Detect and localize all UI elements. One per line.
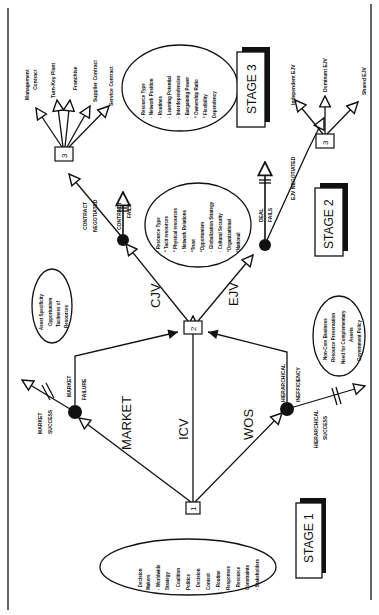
cjv-path-line — [126, 244, 188, 321]
svg-text:MARKET: MARKET — [37, 413, 43, 434]
svg-text:HIERARCHICAL: HIERARCHICAL — [280, 364, 286, 402]
svg-text:Politics: Politics — [186, 573, 191, 590]
svg-text:Contract: Contract — [32, 69, 38, 90]
svg-text:· Interdependencies: · Interdependencies — [176, 75, 181, 118]
svg-text:Asset Specificity: Asset Specificity — [39, 293, 44, 330]
svg-text:· Resource Type: · Resource Type — [156, 217, 161, 252]
stage1-factors-list: · Decision Makers · Worldwide Strategy ·… — [138, 558, 260, 590]
hierarchical-factors-list: Non-Core Business Resource Preservation … — [323, 310, 362, 364]
svg-text:Opportunism: Opportunism — [48, 298, 53, 326]
wos-path-label: WOS — [241, 409, 256, 440]
svg-text:· Globalization Strategy: · Globalization Strategy — [209, 201, 214, 252]
svg-text:· Routines: · Routines — [158, 96, 163, 118]
svg-text:Need for Complementary: Need for Complementary — [341, 310, 346, 364]
contract-type-franchise: Franchise — [72, 66, 78, 90]
svg-text:SUCCESS: SUCCESS — [322, 415, 328, 440]
icv-path-label: ICV — [176, 418, 191, 440]
cjv-path-label: CJV — [148, 283, 163, 308]
market-failure-factors-list: Asset Specificity Opportunism Tacitness … — [39, 293, 69, 330]
svg-text:Tacitness of: Tacitness of — [56, 301, 61, 327]
node-2-label: 2 — [189, 326, 198, 331]
cjv-decision-dot — [117, 234, 129, 246]
svg-text:· Decision: · Decision — [196, 568, 201, 590]
svg-text:SUCCESS: SUCCESS — [47, 409, 53, 434]
svg-text:* Flexibility: * Flexibility — [203, 94, 208, 118]
market-path-label: MARKET — [119, 396, 134, 450]
svg-text:· Stakeholders: · Stakeholders — [255, 558, 260, 590]
hier-success-tick-1 — [332, 388, 337, 405]
stage2-label: STAGE 2 — [322, 199, 336, 249]
svg-text:Responses: Responses — [226, 565, 231, 590]
contract-type-service: Service Contract — [108, 66, 114, 106]
svg-text:Government Policy: Government Policy — [357, 319, 362, 361]
svg-text:Dependency: Dependency — [212, 91, 217, 118]
svg-text:DEAL: DEAL — [258, 208, 264, 222]
svg-text:MARKET: MARKET — [66, 376, 72, 397]
contract-type-arrows — [36, 100, 109, 147]
svg-text:INEFFICIENCY: INEFFICIENCY — [295, 367, 301, 402]
ejv-type-shared: Shared EJV — [361, 67, 367, 95]
ejv-type-independent: Independent EJV — [290, 64, 296, 105]
hier-success-tick-2 — [336, 387, 341, 404]
svg-text:*Trust: *Trust — [191, 239, 196, 252]
svg-text:* Physical resources: * Physical resources — [173, 207, 178, 252]
svg-text:CONTRACT: CONTRACT — [116, 202, 122, 230]
svg-text:· Network Relations: · Network Relations — [182, 209, 187, 252]
contract-type-turnkey: Turn-Key Plant — [50, 62, 56, 98]
hierarchical-inefficiency-arrow — [208, 332, 287, 402]
ejv-negotiated-line — [267, 150, 308, 240]
market-failure-arrow — [75, 332, 178, 405]
svg-text:CONTRACT: CONTRACT — [82, 202, 88, 230]
svg-text:FAILS: FAILS — [267, 207, 273, 222]
svg-text:· Resource: · Resource — [236, 566, 241, 590]
node-3-contract-label: 3 — [60, 153, 69, 158]
svg-text:· Decision: · Decision — [138, 568, 143, 590]
ejv-type-arrows — [295, 96, 358, 134]
svg-text:NEGOTIATED: NEGOTIATED — [92, 199, 98, 232]
ejv-type-dominant: Dominant EJV — [322, 57, 328, 92]
stage3-factors-list: · Resource Type · Network Position · Rou… — [141, 75, 217, 118]
svg-text:*Opportunism: *Opportunism — [200, 222, 205, 252]
svg-text:FAILS: FAILS — [126, 203, 132, 218]
svg-text:· Coalition: · Coalition — [176, 568, 181, 590]
node-1-label: 1 — [189, 506, 198, 511]
ejv-decision-dot — [259, 239, 271, 251]
svg-text:EJV NEGOTIATED: EJV NEGOTIATED — [290, 156, 296, 200]
entry-mode-diagram: · Decision Makers · Worldwide Strategy ·… — [0, 0, 379, 615]
svg-text:Makers: Makers — [146, 574, 151, 590]
svg-text:Assets: Assets — [349, 327, 354, 342]
svg-text:· Cultural Security: · Cultural Security — [218, 213, 223, 252]
market-path-line — [79, 418, 191, 502]
svg-text:Resource Preservation: Resource Preservation — [331, 313, 336, 362]
svg-text:Strategy: Strategy — [165, 571, 170, 590]
stage1-label: STAGE 1 — [302, 513, 316, 563]
svg-text:FAILURE: FAILURE — [81, 378, 87, 400]
stage3-label: STAGE 3 — [245, 64, 259, 114]
svg-text:· Worldwide: · Worldwide — [156, 564, 161, 590]
svg-text:· Learning Potential: · Learning Potential — [167, 76, 172, 118]
svg-text:Non-Core Business: Non-Core Business — [323, 318, 328, 360]
svg-text:· Resource Type: · Resource Type — [141, 83, 146, 118]
svg-text:· Routine: · Routine — [216, 570, 221, 590]
svg-text:· Network Position: · Network Position — [149, 78, 154, 118]
svg-text:HIERARCHICAL: HIERARCHICAL — [313, 410, 319, 448]
contract-type-supplier: Supplier Contract — [92, 60, 98, 102]
svg-text:* Ownership Ratio: * Ownership Ratio — [194, 79, 199, 118]
stage2-factors-list: · Resource Type * Tacit resources * Phys… — [156, 201, 241, 252]
node-3-ejv-label: 3 — [321, 140, 330, 145]
wos-path-line — [195, 413, 282, 502]
svg-text:Resources: Resources — [64, 304, 69, 328]
svg-text:Context: Context — [206, 573, 211, 590]
contract-type-management: Management — [24, 69, 30, 100]
svg-text:*National: *National — [236, 232, 241, 252]
svg-text:Constraints: Constraints — [245, 565, 250, 591]
svg-text:*Organizational: *Organizational — [227, 219, 232, 252]
svg-text:· Bargaining Power: · Bargaining Power — [185, 77, 190, 118]
ejv-path-label: EJV — [226, 282, 241, 306]
svg-text:* Tacit resources: * Tacit resources — [164, 216, 169, 252]
